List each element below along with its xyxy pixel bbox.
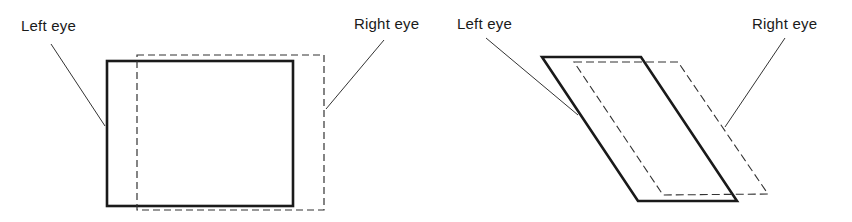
- left-eye-frame-oblique: [542, 57, 737, 201]
- right-eye-leader-oblique: [725, 38, 785, 127]
- figure-rectangular: [51, 40, 384, 210]
- right-eye-frame: [137, 55, 324, 210]
- right-eye-frame-oblique: [574, 62, 768, 195]
- right-eye-label-oblique: Right eye: [752, 15, 817, 32]
- right-eye-label: Right eye: [354, 15, 419, 32]
- stereo-diagram: [0, 0, 852, 222]
- right-eye-leader: [326, 40, 384, 109]
- left-eye-label: Left eye: [21, 17, 76, 34]
- figure-oblique: [486, 38, 785, 201]
- left-eye-label-oblique: Left eye: [457, 15, 512, 32]
- left-eye-leader: [51, 44, 105, 126]
- left-eye-frame: [107, 61, 293, 206]
- left-eye-leader-oblique: [486, 38, 578, 115]
